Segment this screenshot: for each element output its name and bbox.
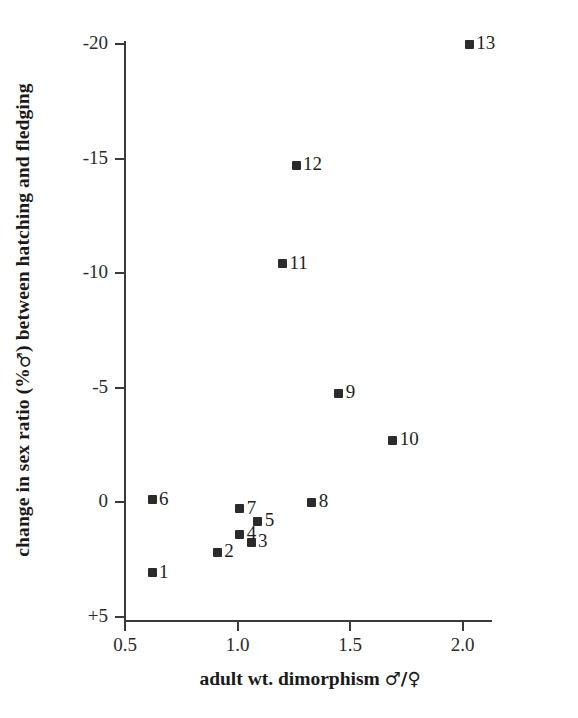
data-point-11 xyxy=(278,259,287,268)
x-tick-1.5 xyxy=(349,622,351,631)
data-point-label-11: 11 xyxy=(290,252,308,274)
x-axis-line xyxy=(124,620,492,622)
data-point-label-10: 10 xyxy=(400,428,419,450)
y-tick--15 xyxy=(115,158,124,160)
data-point-4 xyxy=(235,530,244,539)
x-ticklabel-0.5: 0.5 xyxy=(95,634,155,656)
data-point-label-9: 9 xyxy=(346,381,356,403)
data-point-9 xyxy=(334,389,343,398)
x-ticklabel-2.0: 2.0 xyxy=(433,634,493,656)
y-ticklabel--20: -20 xyxy=(52,32,108,54)
y-ticklabel-+5: +5 xyxy=(52,605,108,627)
data-point-label-8: 8 xyxy=(319,490,329,512)
scatter-plot-figure: change in sex ratio (%♂) between hatchin… xyxy=(0,0,578,718)
data-point-label-1: 1 xyxy=(159,561,169,583)
data-point-label-12: 12 xyxy=(303,153,322,175)
x-tick-0.5 xyxy=(124,622,126,631)
y-tick--5 xyxy=(115,387,124,389)
x-tick-1.0 xyxy=(237,622,239,631)
y-tick-+5 xyxy=(115,616,124,618)
data-point-label-3: 3 xyxy=(258,530,268,552)
data-point-label-13: 13 xyxy=(476,32,495,54)
y-ticklabel-0: 0 xyxy=(52,490,108,512)
data-point-label-2: 2 xyxy=(224,540,234,562)
data-point-7 xyxy=(235,504,244,513)
data-point-label-6: 6 xyxy=(159,488,169,510)
plot-area: -20-15-10-50+5 0.51.01.52.0 123456789101… xyxy=(0,0,578,718)
y-tick--10 xyxy=(115,272,124,274)
x-ticklabel-1.0: 1.0 xyxy=(208,634,268,656)
y-tick-0 xyxy=(115,501,124,503)
data-point-label-5: 5 xyxy=(265,509,275,531)
x-ticklabel-1.5: 1.5 xyxy=(320,634,380,656)
data-point-6 xyxy=(148,495,157,504)
data-point-8 xyxy=(307,498,316,507)
y-ticklabel--15: -15 xyxy=(52,147,108,169)
data-point-13 xyxy=(465,40,474,49)
y-axis-line xyxy=(124,41,126,622)
data-point-10 xyxy=(388,436,397,445)
y-ticklabel--10: -10 xyxy=(52,261,108,283)
y-tick--20 xyxy=(115,43,124,45)
data-point-12 xyxy=(292,161,301,170)
x-tick-2.0 xyxy=(462,622,464,631)
y-ticklabel--5: -5 xyxy=(52,376,108,398)
data-point-1 xyxy=(148,568,157,577)
data-point-2 xyxy=(213,548,222,557)
data-point-label-7: 7 xyxy=(247,497,257,519)
